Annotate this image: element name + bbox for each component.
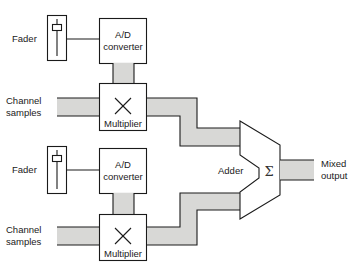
channel-1-sum-bus	[147, 98, 240, 146]
channel-2-fader-icon	[48, 147, 67, 194]
channel-1-ad-label-1: A/D	[115, 29, 131, 40]
channel-2-input-label: Channel	[6, 224, 41, 235]
channel-1-multiplier-label: Multiplier	[104, 118, 142, 129]
channel-1-ad-label-2: converter	[103, 41, 143, 52]
channel-2-multiplier: Multiplier	[100, 215, 147, 261]
channel-2-input-bus	[57, 227, 99, 245]
channel-2-multiplier-label: Multiplier	[104, 248, 142, 259]
channel-1-fader-icon	[48, 16, 67, 61]
channel-2-ad-label-1: A/D	[115, 159, 131, 170]
output-label: Mixed	[321, 158, 346, 169]
adder-label: Adder	[218, 165, 243, 176]
channel-1-ad-converter: A/D converter	[100, 19, 147, 64]
channel-1-input-bus	[57, 98, 99, 116]
output-bus	[280, 160, 314, 180]
channel-1-fader-label: Fader	[12, 33, 37, 44]
channel-2-gain-bus	[113, 193, 134, 214]
channel-1-gain-bus	[113, 63, 134, 83]
output-label-2: output	[321, 170, 348, 181]
channel-2-ad-label-2: converter	[103, 171, 143, 182]
channel-2-ad-converter: A/D converter	[100, 149, 147, 194]
channel-2: Channel samples Fader A/D converter Mult…	[6, 147, 240, 261]
channel-1-input-label-2: samples	[6, 107, 42, 118]
channel-2-sum-bus	[147, 193, 240, 245]
channel-2-fader-label: Fader	[12, 164, 37, 175]
channel-1-multiplier: Multiplier	[100, 84, 147, 131]
sigma-icon: Σ	[264, 164, 273, 179]
channel-2-input-label-2: samples	[6, 236, 42, 247]
audio-mixer-diagram: Channel samples Fader A/D converter	[0, 0, 360, 279]
channel-1: Channel samples Fader A/D converter	[6, 16, 240, 147]
channel-1-input-label: Channel	[6, 95, 41, 106]
